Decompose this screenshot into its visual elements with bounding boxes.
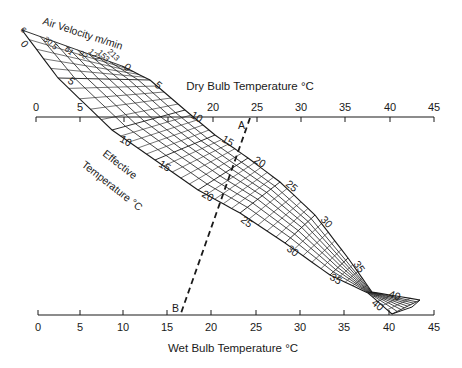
dry-bulb-tick-45: 45 <box>428 101 440 113</box>
velocity-6: 6 <box>18 26 28 36</box>
point-a-label: A <box>238 119 245 131</box>
et-upper-40: 40 <box>387 287 402 302</box>
dry-bulb-axis: 0 5 20 25 30 35 40 45 Dry Bulb Temperatu… <box>33 80 440 122</box>
et-upper-10: 10 <box>189 108 205 124</box>
et-upper-30: 30 <box>319 213 336 230</box>
et-upper-5: 5 <box>153 78 165 91</box>
et-lower-35: 35 <box>328 270 344 286</box>
effective-temperature-nomogram: 0 5 20 25 30 35 40 45 Dry Bulb Temperatu… <box>0 0 462 368</box>
wet-bulb-tick-5: 5 <box>77 321 83 333</box>
et-upper-35: 35 <box>351 258 368 275</box>
et-upper-15: 15 <box>220 132 236 148</box>
air-velocity-scale: Air Velocity m/min 6 30.5 61 92 122 153 … <box>18 14 124 64</box>
et-lower-5: 5 <box>66 74 78 87</box>
wet-bulb-tick-15: 15 <box>161 321 173 333</box>
effective-temperature-label-2: Temperature °C <box>80 158 146 213</box>
wet-bulb-tick-35: 35 <box>338 321 350 333</box>
point-b-label: B <box>172 302 179 314</box>
wet-bulb-tick-20: 20 <box>205 321 217 333</box>
wet-bulb-tick-40: 40 <box>383 321 395 333</box>
dry-bulb-tick-40: 40 <box>384 101 396 113</box>
et-upper-25: 25 <box>284 177 301 194</box>
wet-bulb-tick-30: 30 <box>294 321 306 333</box>
et-lower-0: 0 <box>18 38 31 50</box>
et-lower-10: 10 <box>118 132 134 148</box>
dry-bulb-tick-0: 0 <box>33 101 39 113</box>
wet-bulb-tick-0: 0 <box>35 321 41 333</box>
wet-bulb-tick-25: 25 <box>250 321 262 333</box>
dry-bulb-tick-20: 20 <box>207 101 219 113</box>
dry-bulb-axis-label: Dry Bulb Temperature °C <box>186 80 314 92</box>
dry-bulb-tick-30: 30 <box>295 101 307 113</box>
dry-bulb-tick-5: 5 <box>77 101 83 113</box>
dry-bulb-tick-25: 25 <box>251 101 263 113</box>
wet-bulb-axis: 0 5 10 15 20 25 30 35 40 45 Wet Bulb Tem… <box>35 310 440 354</box>
wet-bulb-axis-label: Wet Bulb Temperature °C <box>168 342 298 354</box>
et-upper-20: 20 <box>252 153 268 169</box>
dry-bulb-tick-35: 35 <box>339 101 351 113</box>
wet-bulb-tick-10: 10 <box>117 321 129 333</box>
wet-bulb-tick-45: 45 <box>428 321 440 333</box>
